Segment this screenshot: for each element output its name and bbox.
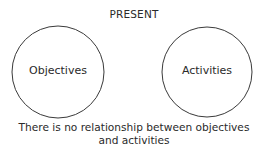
caption-line-1: There is no relationship between objecti… <box>0 121 268 134</box>
activities-label: Activities <box>157 64 257 77</box>
objectives-label: Objectives <box>8 64 108 77</box>
caption-line-2: and activities <box>0 134 268 147</box>
caption: There is no relationship between objecti… <box>0 121 268 147</box>
